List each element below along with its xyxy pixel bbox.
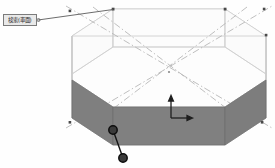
model-canvas[interactable]: [0, 0, 275, 168]
highlight-face-front[interactable]: [113, 107, 225, 145]
vertex-marker[interactable]: [69, 10, 72, 13]
vertex-marker[interactable]: [69, 121, 72, 124]
drag-handle-lower[interactable]: [119, 154, 127, 162]
callout-label-box[interactable]: 検索(車面): [3, 14, 37, 26]
callout-label-text: 検索(車面): [8, 17, 31, 23]
vertex-marker[interactable]: [263, 8, 266, 11]
vertex-marker[interactable]: [112, 8, 115, 11]
drag-handle-upper[interactable]: [109, 126, 117, 134]
vertex-marker[interactable]: [265, 34, 268, 37]
vertex-marker[interactable]: [224, 8, 227, 11]
center-point-marker: [168, 71, 170, 73]
vertex-marker[interactable]: [261, 121, 264, 124]
3d-model-viewport[interactable]: 検索(車面): [0, 0, 275, 168]
inner-wall-back: [113, 9, 225, 47]
